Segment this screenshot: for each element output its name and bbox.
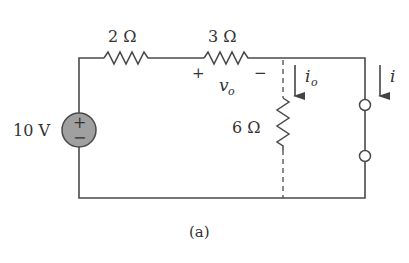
resistor-2ohm-label: 2 Ω	[108, 27, 137, 46]
resistor-6ohm-icon	[277, 98, 289, 150]
wire-left-top	[79, 58, 104, 113]
resistor-6ohm-label: 6 Ω	[232, 118, 261, 137]
vo-minus-sign: −	[254, 64, 267, 82]
terminal-top-icon	[360, 100, 371, 111]
i-label: i	[390, 66, 395, 86]
circuit-diagram: 2 Ω 3 Ω + − v o 6 Ω i o i + − 10 V (a)	[0, 0, 409, 263]
io-label: i	[305, 66, 310, 86]
resistor-3ohm-label: 3 Ω	[208, 27, 237, 46]
resistor-2ohm-icon	[104, 52, 151, 64]
terminal-bottom-icon	[360, 151, 371, 162]
vo-subscript: o	[228, 85, 235, 98]
io-subscript: o	[311, 76, 318, 89]
source-label: 10 V	[13, 121, 50, 140]
resistor-3ohm-icon	[204, 52, 251, 64]
vo-plus-sign: +	[192, 64, 205, 82]
caption: (a)	[189, 223, 210, 241]
source-minus-sign: −	[73, 128, 86, 147]
wire-bottom	[79, 147, 365, 198]
